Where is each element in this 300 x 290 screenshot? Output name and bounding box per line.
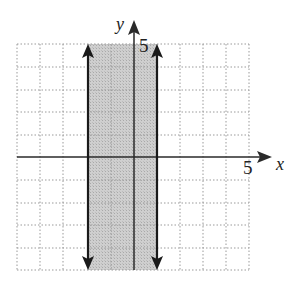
coordinate-plane: y 5 5 x	[0, 0, 300, 290]
y-tick-label-5: 5	[139, 35, 149, 56]
y-axis-label: y	[114, 14, 124, 34]
x-axis-label: x	[275, 154, 284, 174]
x-tick-label-5: 5	[243, 157, 253, 178]
